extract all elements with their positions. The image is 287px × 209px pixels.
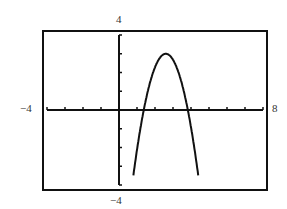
y-max-label: 4 xyxy=(116,14,122,25)
y-min-label: −4 xyxy=(110,195,122,206)
x-min-label: −4 xyxy=(20,103,32,114)
graph-plot xyxy=(0,0,287,209)
x-max-label: 8 xyxy=(272,103,278,114)
parabola-curve xyxy=(133,54,198,176)
